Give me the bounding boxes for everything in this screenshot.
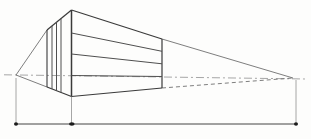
bottom-left-edge: [47, 87, 72, 97]
right-face-division-1: [72, 33, 163, 51]
middle-tick-dot: [69, 122, 75, 126]
right-bottom-construction-line: [162, 78, 293, 88]
right-tick-dot: [294, 122, 298, 126]
left-bottom-construction-line: [16, 75, 47, 87]
top-right-edge: [72, 10, 163, 39]
bottom-right-edge: [72, 88, 163, 97]
left-top-construction-line: [16, 30, 47, 75]
left-tick-dot: [14, 122, 18, 126]
top-left-edge: [47, 10, 72, 30]
perspective-drawing-svg: [0, 0, 311, 139]
right-top-construction-line: [162, 39, 293, 78]
right-face-division-2: [72, 54, 163, 64]
perspective-drawing: [0, 0, 311, 139]
